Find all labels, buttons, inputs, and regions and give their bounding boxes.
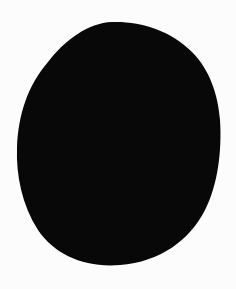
black-blob <box>17 22 221 265</box>
blob-shape <box>0 0 236 289</box>
image-canvas <box>0 0 236 289</box>
